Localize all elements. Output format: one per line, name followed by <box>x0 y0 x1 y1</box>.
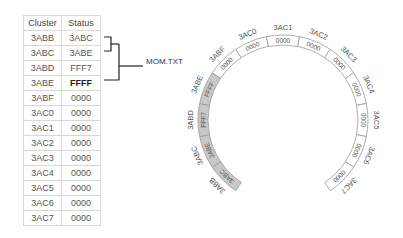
ring-segment: 00003AC2 <box>298 26 331 57</box>
ring-segment: 00003AC7 <box>325 162 359 196</box>
ring-segment: 00003AC5 <box>357 103 381 136</box>
segment-cluster-label: 3AC5 <box>372 111 381 130</box>
ring-segment: FFF73ABD <box>186 103 210 136</box>
segment-value: 0000 <box>360 113 367 128</box>
segment-value: 0000 <box>276 37 291 44</box>
segment-cluster-label: 3ABD <box>186 110 195 130</box>
segment-cluster-label: 3AC1 <box>274 23 293 32</box>
ring-segment: 00003AC0 <box>236 26 269 57</box>
segment-value: FFF7 <box>200 112 207 128</box>
cluster-ring-diagram: 3ABC3ABB3ABE3ABCFFF73ABDFFFF3ABE00003ABF… <box>0 0 403 238</box>
ring-segment: FFFF3ABE <box>189 73 220 106</box>
ring-segment: 00003AC4 <box>345 73 376 106</box>
ring-segment: 3ABE3ABC <box>189 135 221 168</box>
ring-segment: 00003AC6 <box>345 135 376 168</box>
ring-segment: 00003AC1 <box>266 23 299 47</box>
